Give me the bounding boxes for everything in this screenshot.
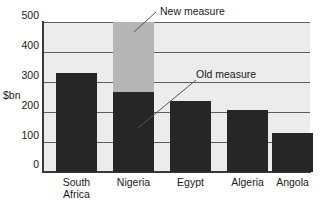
- x-tick-label-angola: Angola: [262, 176, 323, 188]
- y-tick-label-300: 300: [0, 70, 39, 81]
- bar-chart: $bn 500 400 300 200 100 0 South Africa N…: [0, 0, 327, 219]
- bar-egypt-old: [170, 101, 211, 172]
- gridline-500: [43, 22, 310, 23]
- y-tick-label-200: 200: [0, 100, 39, 111]
- bar-nigeria-old: [113, 92, 154, 172]
- x-tick-line2: Africa: [46, 188, 107, 200]
- x-tick-line1: Nigeria: [103, 176, 164, 188]
- bar-algeria-old: [227, 110, 268, 172]
- x-tick-label-egypt: Egypt: [160, 176, 221, 188]
- gridline-400: [43, 52, 310, 53]
- annotation-old-measure: Old measure: [196, 68, 256, 80]
- bar-south-africa-old: [56, 73, 97, 172]
- x-tick-line1: South: [46, 176, 107, 188]
- x-tick-line1: Angola: [262, 176, 323, 188]
- x-tick-label-south-africa: South Africa: [46, 176, 107, 200]
- y-tick-label-500: 500: [0, 10, 39, 21]
- bar-angola-old: [272, 133, 313, 172]
- y-tick-label-100: 100: [0, 130, 39, 141]
- x-tick-line1: Egypt: [160, 176, 221, 188]
- y-tick-label-0: 0: [0, 159, 39, 170]
- y-axis-line: [42, 21, 44, 173]
- y-tick-label-400: 400: [0, 40, 39, 51]
- bar-nigeria-new: [113, 22, 154, 92]
- annotation-new-measure: New measure: [160, 5, 225, 17]
- x-tick-label-nigeria: Nigeria: [103, 176, 164, 188]
